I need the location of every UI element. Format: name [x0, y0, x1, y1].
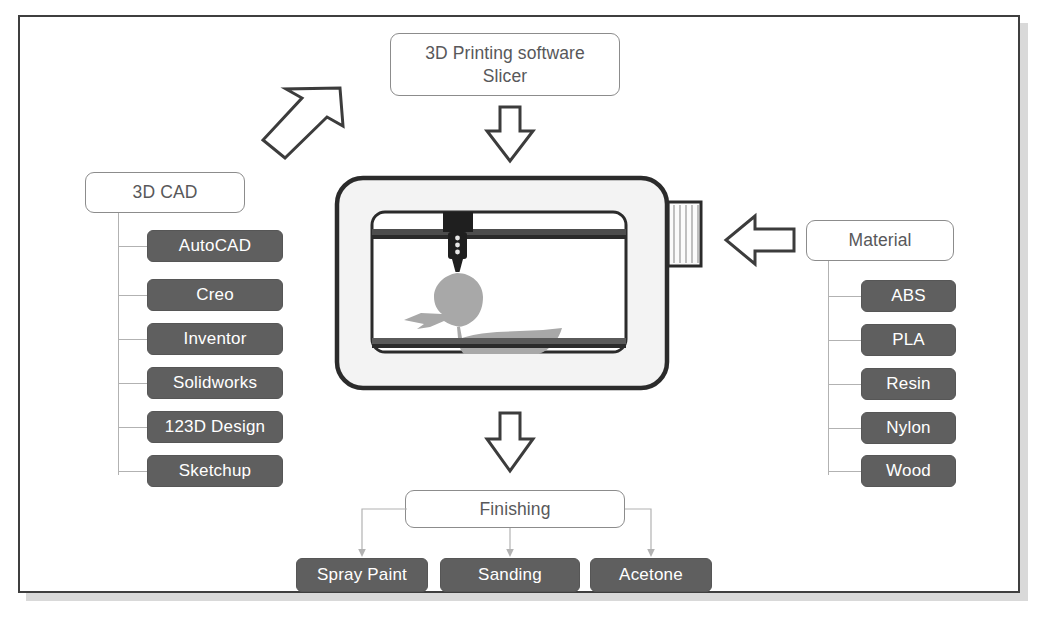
- material-item-resin[interactable]: Resin: [861, 368, 956, 400]
- arrow-cad-to-slicer-icon: [245, 82, 365, 168]
- material-item-pla[interactable]: PLA: [861, 324, 956, 356]
- diagram-canvas: 3D Printing software Slicer 3D CAD AutoC…: [0, 0, 1039, 638]
- material-item-nylon[interactable]: Nylon: [861, 412, 956, 444]
- arrow-material-to-printer-icon: [722, 212, 798, 268]
- cad-item-label: Solidworks: [173, 373, 257, 393]
- cad-item-autocad[interactable]: AutoCAD: [147, 230, 283, 262]
- cad-item-label: Inventor: [183, 329, 246, 349]
- finishing-item-label: Sanding: [478, 565, 542, 585]
- cad-item-label: 123D Design: [165, 417, 265, 437]
- cad-box-label: 3D CAD: [133, 181, 198, 203]
- build-plate-icon: [372, 338, 626, 348]
- arrow-slicer-to-printer-icon: [483, 103, 537, 165]
- finishing-item-label: Acetone: [619, 565, 683, 585]
- cad-item-label: Creo: [196, 285, 234, 305]
- material-branch-line: [828, 384, 862, 385]
- material-item-label: ABS: [891, 286, 926, 306]
- material-branch-line: [828, 296, 862, 297]
- material-item-label: Nylon: [886, 418, 930, 438]
- cad-branch-line: [118, 339, 148, 340]
- slicer-box[interactable]: 3D Printing software Slicer: [390, 33, 620, 96]
- finishing-item-acetone[interactable]: Acetone: [590, 558, 712, 592]
- cad-branch-line: [118, 471, 148, 472]
- material-box-label: Material: [848, 229, 911, 251]
- finishing-connectors: [355, 500, 675, 562]
- cad-item-label: Sketchup: [179, 461, 251, 481]
- slicer-box-line1: 3D Printing software: [425, 42, 585, 64]
- cad-item-solidworks[interactable]: Solidworks: [147, 367, 283, 399]
- cad-item-label: AutoCAD: [179, 236, 251, 256]
- cad-item-inventor[interactable]: Inventor: [147, 323, 283, 355]
- material-item-abs[interactable]: ABS: [861, 280, 956, 312]
- finishing-item-label: Spray Paint: [317, 565, 407, 585]
- material-item-label: PLA: [892, 330, 925, 350]
- material-box[interactable]: Material: [806, 220, 954, 261]
- cad-branch-line: [118, 246, 148, 247]
- material-branch-line: [828, 340, 862, 341]
- cad-branch-line: [118, 295, 148, 296]
- cad-branch-line: [118, 427, 148, 428]
- arrow-printer-to-finishing-icon: [483, 409, 537, 475]
- 3d-printer-illustration: [331, 172, 705, 394]
- material-item-label: Resin: [886, 374, 930, 394]
- cad-item-123d-design[interactable]: 123D Design: [147, 411, 283, 443]
- slicer-box-line2: Slicer: [483, 65, 527, 87]
- material-trunk-line: [828, 261, 829, 475]
- material-branch-line: [828, 471, 862, 472]
- material-item-label: Wood: [886, 461, 931, 481]
- filament-spool-icon: [668, 202, 701, 266]
- cad-branch-line: [118, 383, 148, 384]
- cad-box[interactable]: 3D CAD: [85, 172, 245, 213]
- cad-trunk-line: [118, 213, 119, 475]
- gantry-rail-icon: [372, 229, 626, 239]
- finishing-item-spray-paint[interactable]: Spray Paint: [296, 558, 428, 592]
- cad-item-sketchup[interactable]: Sketchup: [147, 455, 283, 487]
- cad-item-creo[interactable]: Creo: [147, 279, 283, 311]
- finishing-item-sanding[interactable]: Sanding: [440, 558, 580, 592]
- material-item-wood[interactable]: Wood: [861, 455, 956, 487]
- material-branch-line: [828, 428, 862, 429]
